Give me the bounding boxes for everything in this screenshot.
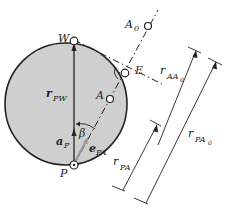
- label-r-PW-sub: PW: [52, 94, 67, 103]
- label-P: P: [59, 167, 68, 180]
- dim-tick-A: [150, 120, 161, 126]
- label-r-PA0: r: [188, 127, 194, 140]
- label-r-AA0-sub: AA: [166, 72, 179, 81]
- dim-tick-A0-1: [188, 47, 201, 53]
- label-e-PA-sub: PA: [95, 148, 107, 157]
- label-r-AA0: r: [160, 64, 166, 77]
- dim-tick-P-1: [112, 186, 125, 191]
- point-W: [70, 37, 78, 45]
- label-beta: β: [78, 127, 85, 140]
- label-r-AA0-subsub: 0: [180, 76, 184, 83]
- point-E: [121, 69, 129, 77]
- label-A0: A: [124, 18, 133, 31]
- point-A: [107, 96, 114, 103]
- label-r-PA: r: [113, 155, 119, 168]
- label-A0-sub: 0: [134, 24, 139, 33]
- label-r-PA0-sub: PA: [194, 135, 206, 144]
- angle-dot-E: [118, 72, 120, 74]
- point-A0: [145, 23, 152, 30]
- label-a-P-sub: P: [63, 141, 70, 150]
- label-W: W: [58, 32, 71, 45]
- dim-line-r-PA0: [146, 64, 215, 203]
- label-A: A: [95, 89, 104, 102]
- label-e-PA: e: [89, 142, 96, 155]
- label-a-P: a: [56, 135, 63, 148]
- label-r-PA0-subsub: 0: [208, 139, 212, 146]
- label-E: E: [134, 64, 143, 77]
- dim-tick-P-2: [134, 198, 148, 204]
- dim-line-r-PA: [123, 127, 156, 190]
- point-P-center: [73, 164, 75, 166]
- kinematics-diagram: W E A A 0 P r PW a P e PA β r AA 0 r PA …: [0, 0, 230, 218]
- label-r-PA-sub: PA: [119, 163, 131, 172]
